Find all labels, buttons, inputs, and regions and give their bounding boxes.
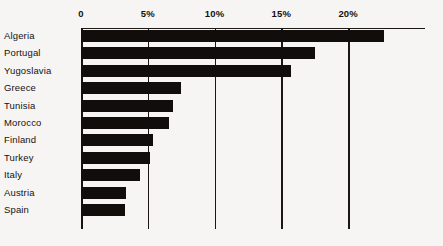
x-axis-tick-label: 15% [272,8,292,19]
bar [81,65,291,77]
bar-fill [81,134,153,146]
bar [81,100,173,112]
bar-fill [81,169,140,181]
category-label: Finland [4,134,78,145]
bar [81,134,153,146]
bar-fill [81,117,169,129]
category-axis-labels: AlgeriaPortugalYugoslaviaGreeceTunisiaMo… [4,30,78,230]
category-label: Yugoslavia [4,65,78,76]
category-label: Tunisia [4,100,78,111]
bar-fill [81,30,384,42]
bar-fill [81,65,291,77]
x-axis-tick-label: 0 [78,8,83,19]
bar-fill [81,187,126,199]
category-label: Turkey [4,152,78,163]
x-axis-tick-label: 10% [205,8,225,19]
category-label: Greece [4,82,78,93]
bar-fill [81,204,125,216]
category-label: Spain [4,204,78,215]
bar [81,30,384,42]
bar-fill [81,152,150,164]
category-label: Italy [4,169,78,180]
x-axis-tick-label: 5% [141,8,155,19]
category-label: Algeria [4,30,78,41]
bar [81,152,150,164]
category-label: Portugal [4,47,78,58]
bar-fill [81,82,181,94]
bar [81,117,169,129]
category-label: Austria [4,187,78,198]
bar-chart: 05%10%15%20% AlgeriaPortugalYugoslaviaGr… [0,0,443,246]
bar [81,169,140,181]
bar [81,187,126,199]
plot-area [81,30,425,230]
bar-fill [81,47,315,59]
bar [81,204,125,216]
bar [81,82,181,94]
bar [81,47,315,59]
bar-fill [81,100,173,112]
x-axis-tick-label: 20% [338,8,358,19]
category-label: Morocco [4,117,78,128]
